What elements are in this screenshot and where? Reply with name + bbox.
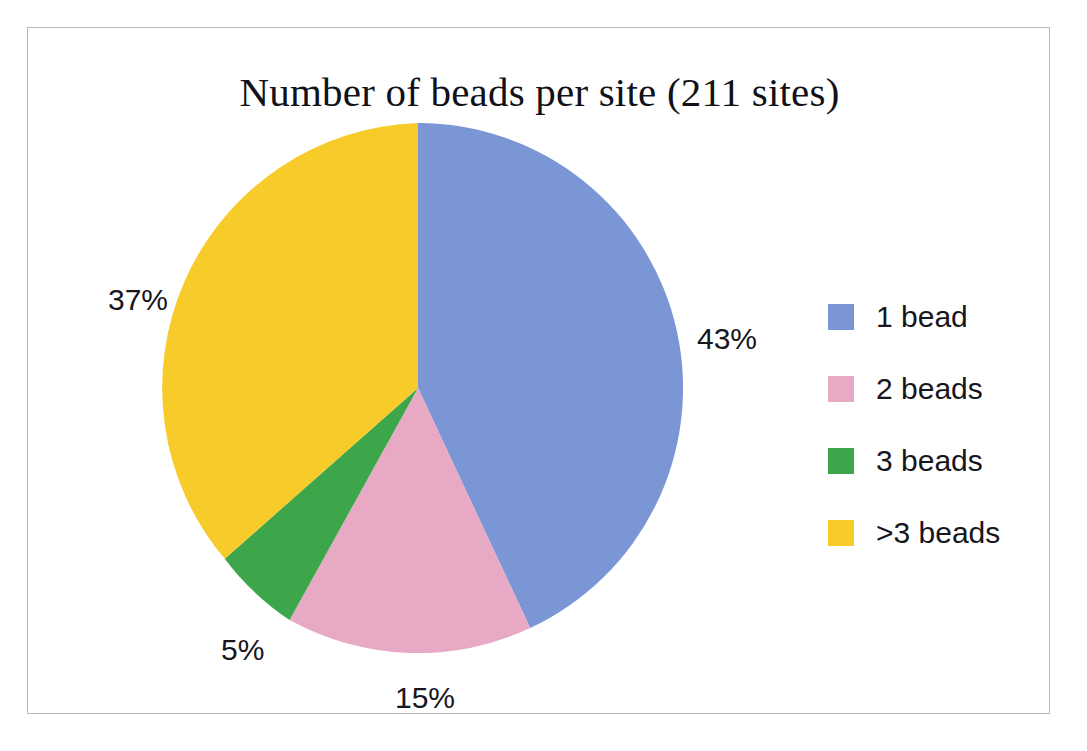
- pie-value-label-1-bead: 43%: [697, 322, 757, 356]
- chart-legend: 1 bead 2 beads 3 beads >3 beads: [828, 281, 1038, 569]
- pie-chart: [153, 123, 683, 653]
- pie-value-label-3-beads: 5%: [221, 633, 264, 667]
- legend-item-2-beads[interactable]: 2 beads: [828, 353, 1038, 425]
- legend-item-3-beads[interactable]: 3 beads: [828, 425, 1038, 497]
- legend-label-gt3-beads: >3 beads: [876, 516, 1000, 550]
- legend-label-1-bead: 1 bead: [876, 300, 968, 334]
- legend-swatch-icon-1-bead: [828, 304, 854, 330]
- chart-frame: Number of beads per site (211 sites) 43%…: [27, 27, 1050, 714]
- pie-svg: [153, 123, 683, 653]
- legend-swatch-icon-3-beads: [828, 448, 854, 474]
- pie-value-label-gt3-beads: 37%: [108, 283, 168, 317]
- legend-item-gt3-beads[interactable]: >3 beads: [828, 497, 1038, 569]
- legend-swatch-icon-gt3-beads: [828, 520, 854, 546]
- pie-value-label-2-beads: 15%: [395, 681, 455, 715]
- chart-title: Number of beads per site (211 sites): [28, 68, 1051, 116]
- legend-item-1-bead[interactable]: 1 bead: [828, 281, 1038, 353]
- legend-label-2-beads: 2 beads: [876, 372, 983, 406]
- legend-swatch-icon-2-beads: [828, 376, 854, 402]
- legend-label-3-beads: 3 beads: [876, 444, 983, 478]
